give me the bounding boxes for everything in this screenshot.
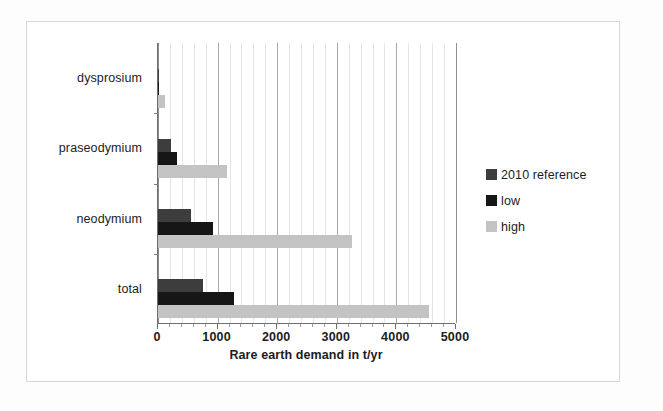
y-axis-label-praseodymium: praseodymium xyxy=(59,141,142,155)
gridline-major xyxy=(396,43,397,323)
bar-total-low xyxy=(158,292,234,305)
x-axis-tick-minor xyxy=(312,324,313,327)
x-axis-tick xyxy=(217,324,218,329)
legend-item-low[interactable]: low xyxy=(486,194,636,207)
legend-label: high xyxy=(501,220,525,234)
x-axis-tick-minor xyxy=(348,324,349,327)
bar-neodymium-low xyxy=(158,222,213,235)
bar-neodymium-2010-reference xyxy=(158,209,191,222)
legend-item-high[interactable]: high xyxy=(486,220,636,233)
x-axis-tick-minor xyxy=(372,324,373,327)
x-axis-tick-minor xyxy=(240,324,241,327)
x-axis-tick-minor xyxy=(419,324,420,327)
x-axis-tick-labels: 010002000300040005000 xyxy=(0,330,663,350)
gridline-major xyxy=(456,43,457,323)
x-axis-tick-minor xyxy=(288,324,289,327)
gridline-minor xyxy=(349,43,350,323)
y-axis-tick xyxy=(154,184,158,185)
bar-dysprosium-low xyxy=(158,82,159,95)
bar-dysprosium-2010-reference xyxy=(158,69,159,82)
x-axis-tick xyxy=(336,324,337,329)
gridline-minor xyxy=(420,43,421,323)
plot-area xyxy=(157,43,455,324)
gridline-minor xyxy=(230,43,231,323)
x-axis-title: Rare earth demand in t/yr xyxy=(157,348,455,362)
y-axis-label-dysprosium: dysprosium xyxy=(77,71,142,85)
x-axis-tick-label: 5000 xyxy=(441,330,470,344)
gridline-minor xyxy=(432,43,433,323)
legend-swatch-icon xyxy=(486,169,497,180)
legend-swatch-icon xyxy=(486,221,497,232)
y-axis-label-neodymium: neodymium xyxy=(76,212,142,226)
x-axis-tick-minor xyxy=(431,324,432,327)
y-axis-category-labels: dysprosiumpraseodymiumneodymiumtotal xyxy=(0,43,150,324)
x-axis-tick-minor xyxy=(169,324,170,327)
x-axis-tick-minor xyxy=(264,324,265,327)
x-axis-tick xyxy=(276,324,277,329)
gridline-minor xyxy=(384,43,385,323)
chart-legend: 2010 reference low high xyxy=(486,168,636,246)
gridline-minor xyxy=(253,43,254,323)
bar-praseodymium-2010-reference xyxy=(158,139,171,152)
x-axis-tick-minor xyxy=(360,324,361,327)
x-axis-tick-minor xyxy=(443,324,444,327)
x-axis-tick-minor xyxy=(181,324,182,327)
bar-dysprosium-high xyxy=(158,95,165,108)
bar-total-high xyxy=(158,305,429,318)
x-axis-tick xyxy=(455,324,456,329)
gridline-minor xyxy=(301,43,302,323)
gridline-minor xyxy=(313,43,314,323)
y-axis-tick xyxy=(154,254,158,255)
x-axis-tick-label: 0 xyxy=(153,330,160,344)
gridline-minor xyxy=(206,43,207,323)
x-axis-tick-minor xyxy=(229,324,230,327)
gridline-minor xyxy=(325,43,326,323)
gridline-major xyxy=(218,43,219,323)
legend-item-2010-reference[interactable]: 2010 reference xyxy=(486,168,636,181)
x-axis-tick-minor xyxy=(324,324,325,327)
legend-label: 2010 reference xyxy=(501,168,587,182)
gridline-minor xyxy=(373,43,374,323)
y-axis-tick xyxy=(154,113,158,114)
x-axis-tick-label: 2000 xyxy=(262,330,291,344)
gridline-minor xyxy=(444,43,445,323)
bar-praseodymium-low xyxy=(158,152,177,165)
x-axis-tick-minor xyxy=(193,324,194,327)
x-axis-tick-label: 1000 xyxy=(202,330,231,344)
bar-neodymium-high xyxy=(158,235,352,248)
x-axis-tick-label: 4000 xyxy=(381,330,410,344)
legend-swatch-icon xyxy=(486,195,497,206)
x-axis-tick-minor xyxy=(300,324,301,327)
legend-label: low xyxy=(501,194,520,208)
y-axis-label-total: total xyxy=(118,282,142,296)
bar-total-2010-reference xyxy=(158,279,203,292)
gridline-minor xyxy=(265,43,266,323)
gridline-major xyxy=(337,43,338,323)
x-axis-tick-minor xyxy=(252,324,253,327)
x-axis-tick-label: 3000 xyxy=(321,330,350,344)
x-axis-tick-minor xyxy=(383,324,384,327)
x-axis-tick xyxy=(395,324,396,329)
bar-praseodymium-high xyxy=(158,165,227,178)
x-axis-tick xyxy=(157,324,158,329)
gridline-major xyxy=(277,43,278,323)
gridline-minor xyxy=(241,43,242,323)
x-axis-tick-minor xyxy=(205,324,206,327)
gridline-minor xyxy=(361,43,362,323)
chart-figure: dysprosiumpraseodymiumneodymiumtotal 010… xyxy=(0,0,663,411)
gridline-minor xyxy=(289,43,290,323)
x-axis-tick-minor xyxy=(407,324,408,327)
gridline-minor xyxy=(408,43,409,323)
